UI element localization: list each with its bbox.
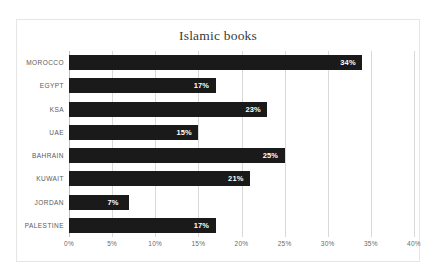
bar[interactable] (69, 102, 267, 117)
x-tick-label: 5% (107, 240, 117, 247)
x-tick-label: 20% (235, 240, 249, 247)
category-label: UAE (49, 125, 64, 140)
plot-area: MOROCCO34%EGYPT17%KSA23%UAE15%BAHRAIN25%… (69, 51, 414, 237)
bar-value-label: 23% (245, 102, 261, 117)
x-tick-label: 30% (321, 240, 335, 247)
x-tick-label: 40% (407, 240, 421, 247)
chart-container: Islamic books MOROCCO34%EGYPT17%KSA23%UA… (16, 19, 420, 262)
bar-row: KUWAIT21% (69, 167, 414, 190)
x-tick-label: 25% (278, 240, 292, 247)
category-label: BAHRAIN (32, 148, 64, 163)
bar-row: BAHRAIN25% (69, 144, 414, 167)
bar[interactable] (69, 195, 129, 210)
category-label: MOROCCO (26, 55, 64, 70)
bar[interactable] (69, 55, 362, 70)
gridline-40 (414, 51, 415, 237)
x-tick-label: 35% (364, 240, 378, 247)
bar-row: KSA23% (69, 98, 414, 121)
bar-value-label: 21% (228, 171, 244, 186)
bar[interactable] (69, 148, 285, 163)
bar-row: JORDAN7% (69, 191, 414, 214)
category-label: JORDAN (35, 195, 64, 210)
chart-title: Islamic books (17, 28, 419, 44)
category-label: EGYPT (40, 78, 64, 93)
x-tick-label: 15% (191, 240, 205, 247)
bar-value-label: 25% (263, 148, 279, 163)
bar-value-label: 34% (340, 55, 356, 70)
category-label: KUWAIT (36, 171, 64, 186)
bar[interactable] (69, 171, 250, 186)
x-tick-label: 0% (64, 240, 74, 247)
bar-value-label: 15% (176, 125, 192, 140)
bar-value-label: 17% (194, 218, 210, 233)
bar-row: MOROCCO34% (69, 51, 414, 74)
x-axis: 0%5%10%15%20%25%30%35%40% (69, 240, 414, 254)
bar-value-label: 7% (107, 195, 118, 210)
x-tick-label: 10% (148, 240, 162, 247)
bar-row: PALESTINE17% (69, 214, 414, 237)
bar-value-label: 17% (194, 78, 210, 93)
bar-row: UAE15% (69, 121, 414, 144)
bar-row: EGYPT17% (69, 74, 414, 97)
category-label: PALESTINE (25, 218, 64, 233)
category-label: KSA (50, 102, 64, 117)
